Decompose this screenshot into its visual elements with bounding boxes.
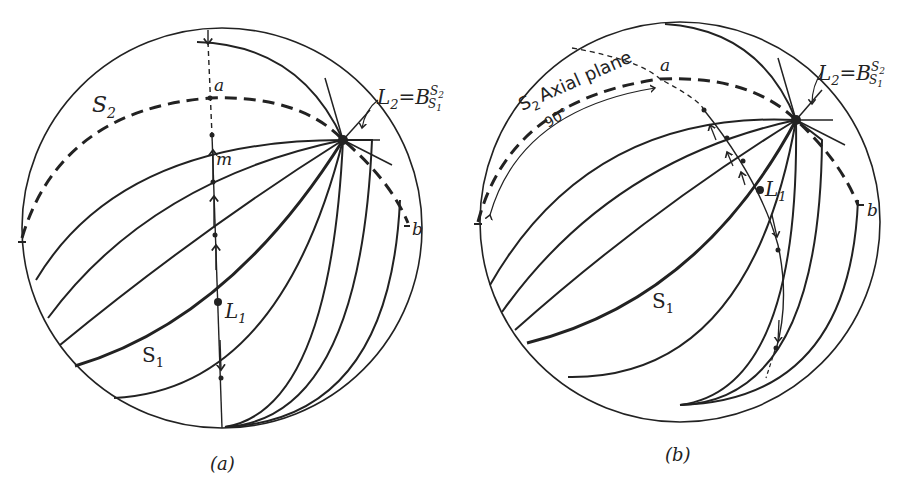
label-s1-a: S1: [142, 343, 164, 370]
label-90deg-b: 90°: [542, 104, 572, 130]
label-b-b: b: [867, 200, 878, 220]
label-m-a: m: [216, 149, 232, 169]
label-a-a: a: [214, 75, 224, 95]
points-a: [208, 96, 349, 381]
label-s1-b: S1: [652, 289, 674, 316]
stereonet-figure: S2 a m b L1 S1 L2=BS2 S1 (a): [0, 0, 905, 492]
label-b-a: b: [412, 219, 423, 239]
caption-b: (b): [665, 444, 691, 465]
label-a-b: a: [660, 55, 670, 75]
label-l1-a: L1: [224, 299, 247, 326]
label-s2-a: S2: [92, 92, 116, 121]
label-s2-axial-plane-b: S2Axial plane: [515, 46, 636, 118]
caption-a: (a): [210, 453, 235, 474]
